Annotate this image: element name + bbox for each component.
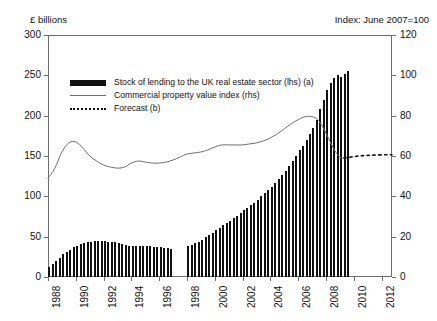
legend-item-lending: Stock of lending to the UK real estate s…	[68, 76, 314, 89]
chart-legend: Stock of lending to the UK real estate s…	[68, 76, 314, 115]
line-series-layer	[48, 35, 392, 277]
y-tick-right	[392, 196, 396, 197]
y-label-right: 40	[400, 191, 437, 201]
y-tick-right	[392, 237, 396, 238]
x-tick	[187, 277, 188, 281]
y-label-left: 300	[0, 30, 41, 40]
x-tick	[354, 277, 355, 281]
y-label-right: 120	[400, 30, 437, 40]
x-label: 2000	[219, 286, 229, 308]
y-label-right: 80	[400, 111, 437, 121]
x-label: 1990	[80, 286, 90, 308]
y-label-left: 250	[0, 70, 41, 80]
right-axis-title: Index: June 2007=100	[335, 14, 429, 25]
legend-label-lending: Stock of lending to the UK real estate s…	[114, 78, 314, 87]
x-tick	[76, 277, 77, 281]
left-axis-title: £ billions	[30, 14, 67, 25]
x-tick	[159, 277, 160, 281]
x-label: 2002	[247, 286, 257, 308]
y-label-left: 0	[0, 272, 41, 282]
x-tick	[215, 277, 216, 281]
legend-label-index: Commercial property value index (rhs)	[114, 91, 260, 100]
y-tick-right	[392, 75, 396, 76]
x-label: 2004	[274, 286, 284, 308]
dash-swatch-icon	[68, 102, 108, 115]
x-label: 1996	[163, 286, 173, 308]
x-tick	[326, 277, 327, 281]
legend-item-index: Commercial property value index (rhs)	[68, 89, 314, 102]
x-tick	[270, 277, 271, 281]
y-tick-right	[392, 277, 396, 278]
y-tick-right	[392, 116, 396, 117]
x-tick	[298, 277, 299, 281]
line-commercial-property-value-index	[48, 116, 344, 178]
y-tick-right	[392, 156, 396, 157]
y-label-right: 20	[400, 232, 437, 242]
plot-area	[48, 35, 392, 277]
x-tick	[48, 277, 49, 281]
x-label: 1988	[52, 286, 62, 308]
x-label: 2012	[386, 286, 396, 308]
y-label-left: 50	[0, 232, 41, 242]
y-label-left: 200	[0, 111, 41, 121]
legend-label-forecast: Forecast (b)	[114, 104, 160, 113]
x-label: 1992	[108, 286, 118, 308]
y-tick-right	[392, 35, 396, 36]
y-label-right: 100	[400, 70, 437, 80]
y-label-left: 100	[0, 191, 41, 201]
line-forecast	[344, 155, 392, 158]
x-label: 1998	[191, 286, 201, 308]
x-tick	[243, 277, 244, 281]
y-label-left: 150	[0, 151, 41, 161]
x-label: 2006	[302, 286, 312, 308]
bar-swatch-icon	[68, 76, 108, 89]
y-label-right: 60	[400, 151, 437, 161]
x-label: 1994	[135, 286, 145, 308]
x-label: 2008	[330, 286, 340, 308]
legend-item-forecast: Forecast (b)	[68, 102, 314, 115]
y-label-right: 0	[400, 272, 437, 282]
x-label: 2010	[358, 286, 368, 308]
x-tick	[382, 277, 383, 281]
line-swatch-icon	[68, 89, 108, 102]
x-tick	[104, 277, 105, 281]
x-tick	[131, 277, 132, 281]
chart-container: £ billions Index: June 2007=100 05010015…	[0, 0, 437, 321]
